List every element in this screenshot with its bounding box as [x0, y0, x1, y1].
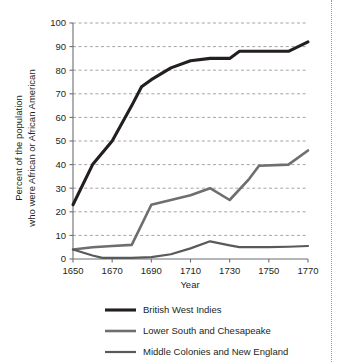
series-line-2: [73, 241, 308, 258]
y-axis-title-line1: Percent of the population: [13, 95, 24, 201]
legend-label-2: Middle Colonies and New England: [143, 346, 288, 357]
axes: [70, 23, 309, 263]
y-tick-label-50: 50: [55, 135, 66, 146]
y-tick-label-70: 70: [55, 88, 66, 99]
y-tick-label-0: 0: [61, 253, 66, 264]
y-tick-label-20: 20: [55, 206, 66, 217]
y-tick-label-30: 30: [55, 183, 66, 194]
y-tick-label-100: 100: [50, 17, 66, 28]
x-axis-title: Year: [180, 279, 199, 290]
y-tick-label-90: 90: [55, 41, 66, 52]
x-tick-label-1750: 1750: [258, 265, 279, 276]
legend-label-1: Lower South and Chesapeake: [143, 325, 271, 336]
series-line-0: [73, 42, 308, 205]
chart-legend: British West IndiesLower South and Chesa…: [105, 304, 288, 357]
page-edge-rule: [331, 0, 332, 362]
gridlines: [73, 23, 308, 235]
x-tick-label-1690: 1690: [141, 265, 162, 276]
x-axis-tick-labels: 1650167016901710173017501770: [62, 265, 318, 276]
x-tick-label-1770: 1770: [297, 265, 318, 276]
x-tick-label-1730: 1730: [219, 265, 240, 276]
legend-label-0: British West Indies: [143, 304, 222, 315]
series-line-1: [73, 150, 308, 249]
data-series: [73, 42, 308, 258]
line-chart: 0102030405060708090100 16501670169017101…: [0, 0, 339, 362]
y-tick-label-80: 80: [55, 65, 66, 76]
y-axis-tick-labels: 0102030405060708090100: [50, 17, 66, 264]
y-tick-label-40: 40: [55, 159, 66, 170]
x-tick-label-1650: 1650: [62, 265, 83, 276]
x-tick-label-1670: 1670: [102, 265, 123, 276]
x-tick-label-1710: 1710: [180, 265, 201, 276]
chart-figure: 0102030405060708090100 16501670169017101…: [0, 0, 339, 362]
y-tick-label-10: 10: [55, 230, 66, 241]
y-tick-label-60: 60: [55, 112, 66, 123]
y-axis-title-line2: who were African or African American: [26, 69, 37, 227]
